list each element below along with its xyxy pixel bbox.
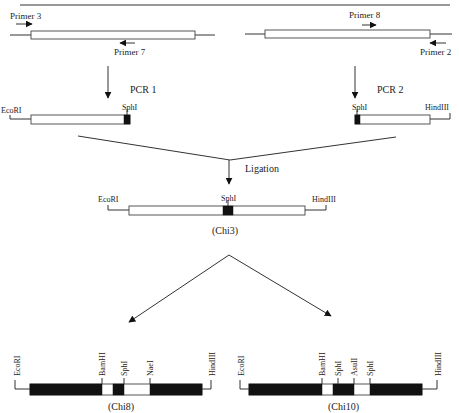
sphi-site-block [223, 206, 233, 215]
bamhi-label: BamHI [98, 352, 107, 376]
naei-label: NaeI [146, 360, 155, 376]
primer-7-label: Primer 7 [114, 47, 146, 57]
asuii-label: AsuII [350, 357, 359, 376]
chi3-name: (Chi3) [212, 225, 238, 237]
chi10-name: (Chi10) [328, 401, 359, 413]
ecori-label: EcoRI [1, 106, 22, 115]
primer-3-label: Primer 3 [10, 11, 42, 21]
ecori-label: EcoRI [237, 355, 246, 376]
chi8-name: (Chi8) [108, 401, 134, 413]
sphi-label: SphI [221, 194, 236, 203]
hindiii-label: HindIII [425, 103, 449, 112]
sphi-site-block [124, 115, 130, 124]
ecori-label: EcoRI [98, 195, 119, 204]
primer-8-label: Primer 8 [349, 10, 381, 20]
ligation-label: Ligation [245, 163, 279, 174]
sphi-label: SphI [352, 103, 367, 112]
to-chi10-arrow-icon [229, 255, 331, 316]
right-template: Primer 8 Primer 2 [245, 10, 452, 57]
pcr2-label: PCR 2 [377, 84, 403, 95]
chi10-construct: EcoRI BamHI SphI AsuII SphI HindIII (Chi… [237, 352, 443, 413]
hindiii-label: HindIII [434, 352, 443, 376]
ecori-label: EcoRI [13, 355, 22, 376]
bamhi-label: BamHI [318, 352, 327, 376]
chi3-construct: EcoRI SphI HindIII (Chi3) [98, 194, 336, 237]
convergence-lines [78, 136, 396, 160]
pcr1-label: PCR 1 [130, 84, 156, 95]
sphi-label: SphI [334, 361, 343, 376]
pcr1-fragment: EcoRI SphI [1, 103, 137, 124]
chimera-construction-diagram: Primer 3 Primer 7 Primer 8 Primer 2 PCR … [0, 0, 459, 413]
left-template: Primer 3 Primer 7 [10, 11, 215, 57]
primer-2-label: Primer 2 [420, 47, 451, 57]
sphi-site-block [355, 115, 360, 124]
chi8-construct: EcoRI BamHI SphI NaeI HindIII (Chi8) [13, 352, 217, 413]
pcr2-fragment: SphI HindIII [352, 103, 450, 124]
hindiii-label: HindIII [312, 195, 336, 204]
to-chi8-arrow-icon [129, 255, 229, 322]
sphi-label: SphI [120, 361, 129, 376]
sphi-label-2: SphI [366, 361, 375, 376]
sphi-label: SphI [122, 103, 137, 112]
hindiii-label: HindIII [208, 352, 217, 376]
